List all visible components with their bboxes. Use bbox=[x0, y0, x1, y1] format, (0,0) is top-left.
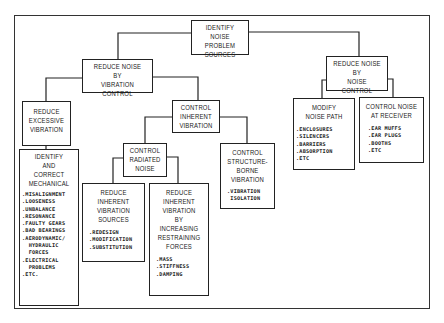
list-item: FORCES bbox=[22, 249, 78, 256]
reduce-inherent-restraining-box: REDUCE INHERENT VIBRATION BY INCREASING … bbox=[149, 183, 209, 296]
list-item: .MODIFICATION bbox=[89, 236, 144, 243]
list-item: .BAD BEARINGS bbox=[22, 227, 78, 234]
box-title: REDUCE INHERENT VIBRATION SOURCES bbox=[88, 184, 140, 224]
list-item: .FAULTY GEARS bbox=[22, 220, 78, 227]
box-title: CONTROL NOISE AT RECEIVER bbox=[365, 98, 419, 120]
box-title: CONTROL INHERENT VIBRATION bbox=[176, 101, 215, 130]
box-title: IDENTIFY AND CORRECT MECHANICAL bbox=[24, 150, 73, 188]
list-item: .RESONANCE bbox=[22, 213, 78, 220]
control-radiated-noise-box: CONTROL RADIATED NOISE bbox=[123, 143, 167, 177]
item-list: .MASS .STIFFNESS .DAMPING bbox=[150, 256, 208, 278]
control-structure-borne-box: CONTROL STRUCTURE- BORNE VIBRATION .VIBR… bbox=[220, 143, 275, 209]
box-title: REDUCE NOISE BY NOISE CONTROL bbox=[332, 57, 383, 95]
list-item: .SUBSTITUTION bbox=[89, 244, 144, 251]
identify-correct-mechanical-box: IDENTIFY AND CORRECT MECHANICAL .MISALIG… bbox=[19, 149, 79, 306]
box-title: MODIFY NOISE PATH bbox=[299, 99, 350, 121]
modify-noise-path-box: MODIFY NOISE PATH .ENCLOSURES .SILENCERS… bbox=[293, 98, 355, 170]
item-list: .ENCLOSURES .SILENCERS .BARRIERS .ABSORP… bbox=[294, 126, 354, 162]
list-item: .UNBALANCE bbox=[22, 206, 78, 213]
noise-control-box: REDUCE NOISE BY NOISE CONTROL bbox=[326, 56, 388, 91]
item-list: .VIBRATION ISOLATION bbox=[221, 188, 274, 203]
list-item: ISOLATION bbox=[227, 195, 274, 202]
box-title: REDUCE INHERENT VIBRATION BY INCREASING … bbox=[154, 184, 203, 251]
list-item: .REDESIGN bbox=[89, 229, 144, 236]
list-item: .EAR MUFFS bbox=[368, 125, 423, 132]
list-item: .ETC bbox=[368, 147, 423, 154]
list-item: .ELECTRICAL bbox=[22, 257, 78, 264]
item-list: .REDESIGN .MODIFICATION .SUBSTITUTION bbox=[83, 229, 144, 251]
reduce-inherent-sources-box: REDUCE INHERENT VIBRATION SOURCES .REDES… bbox=[82, 183, 145, 262]
list-item: .ETC bbox=[296, 155, 354, 162]
list-item: HYDRAULIC bbox=[22, 242, 78, 249]
list-item: .AERODYNAMIC/ bbox=[22, 235, 78, 242]
list-item: .ENCLOSURES bbox=[296, 126, 354, 133]
control-inherent-vibration-box: CONTROL INHERENT VIBRATION bbox=[172, 100, 220, 133]
list-item: .MASS bbox=[156, 256, 208, 263]
list-item: .ABSORPTION bbox=[296, 148, 354, 155]
box-title: REDUCE EXCESSIVE VIBRATION bbox=[27, 102, 67, 134]
list-item: .VIBRATION bbox=[227, 188, 274, 195]
list-item: PROBLEMS bbox=[22, 264, 78, 271]
list-item: .ETC. bbox=[22, 271, 78, 278]
list-item: .SILENCERS bbox=[296, 133, 354, 140]
item-list: .EAR MUFFS .EAR PLUGS .BOOTHS .ETC bbox=[360, 125, 423, 154]
list-item: .LOOSENESS bbox=[22, 198, 78, 205]
box-title: REDUCE NOISE BY VIBRATION CONTROL bbox=[88, 60, 147, 98]
box-title: IDENTIFY NOISE PROBLEM SOURCES bbox=[196, 21, 244, 59]
box-title: CONTROL RADIATED NOISE bbox=[127, 144, 163, 173]
list-item: .BOOTHS bbox=[368, 140, 423, 147]
item-list: .MISALIGNMENT .LOOSENESS .UNBALANCE .RES… bbox=[20, 191, 78, 279]
list-item: .BARRIERS bbox=[296, 141, 354, 148]
identify-noise-sources-box: IDENTIFY NOISE PROBLEM SOURCES bbox=[191, 20, 249, 55]
list-item: .STIFFNESS bbox=[156, 263, 208, 270]
list-item: .DAMPING bbox=[156, 271, 208, 278]
list-item: .MISALIGNMENT bbox=[22, 191, 78, 198]
vibration-control-box: REDUCE NOISE BY VIBRATION CONTROL bbox=[82, 59, 153, 93]
list-item: .EAR PLUGS bbox=[368, 132, 423, 139]
control-noise-receiver-box: CONTROL NOISE AT RECEIVER .EAR MUFFS .EA… bbox=[359, 97, 424, 163]
box-title: CONTROL STRUCTURE- BORNE VIBRATION bbox=[225, 144, 270, 184]
reduce-excessive-vibration-box: REDUCE EXCESSIVE VIBRATION bbox=[22, 101, 71, 146]
